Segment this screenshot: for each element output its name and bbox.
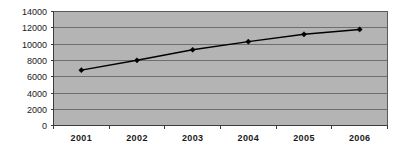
y-tick-label-12000: 12000 [22, 23, 47, 33]
y-tick-label-0: 0 [42, 121, 47, 131]
x-tick-label-2006: 2006 [349, 133, 371, 143]
y-tick-label-2000: 2000 [27, 105, 47, 115]
y-tick-label-6000: 6000 [27, 72, 47, 82]
y-tick-label-14000: 14000 [22, 7, 47, 17]
plot-area-background [54, 12, 388, 126]
y-tick-label-8000: 8000 [27, 56, 47, 66]
chart-canvas: 14000 12000 10000 8000 6000 4000 2000 0 … [0, 0, 399, 154]
x-tick-label-2001: 2001 [70, 133, 92, 143]
y-tick-label-4000: 4000 [27, 89, 47, 99]
x-tick-label-2004: 2004 [237, 133, 259, 143]
x-tick-label-2005: 2005 [293, 133, 315, 143]
line-chart: 14000 12000 10000 8000 6000 4000 2000 0 … [0, 0, 399, 154]
y-tick-label-10000: 10000 [22, 40, 47, 50]
x-tick-label-2002: 2002 [126, 133, 148, 143]
x-tick-label-2003: 2003 [182, 133, 204, 143]
